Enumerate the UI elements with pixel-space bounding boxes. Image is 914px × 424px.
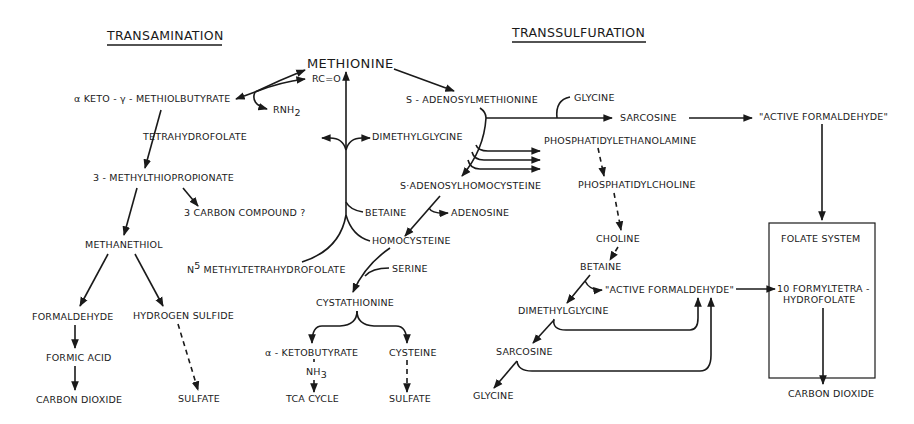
node-sarcosine-top: SARCOSINE <box>620 112 677 123</box>
node-s-adenosylmethionine: S - ADENOSYLMETHIONINE <box>406 94 538 105</box>
node-adenosine: ADENOSINE <box>451 207 509 218</box>
node-glycine-top: GLYCINE <box>574 92 615 103</box>
node-methionine: METHIONINE <box>307 56 394 71</box>
node-formaldehyde: FORMALDEHYDE <box>32 311 114 322</box>
transamination-arrows <box>75 110 198 390</box>
section-title-transsulfuration: TRANSSULFURATION <box>511 25 646 42</box>
node-nh3: NH3 <box>306 366 327 380</box>
node-10-formyltetrahydrofolate-line2: HYDROFOLATE <box>783 294 856 305</box>
node-dimethylglycine-right: DIMETHYLGLYCINE <box>518 305 609 316</box>
folate-system-box: FOLATE SYSTEM 10 FORMYLTETRA - HYDROFOLA… <box>769 223 875 399</box>
node-choline: CHOLINE <box>596 233 640 244</box>
node-methanethiol: METHANETHIOL <box>85 239 163 250</box>
folate-system-title: FOLATE SYSTEM <box>781 233 861 244</box>
node-betaine-center: BETAINE <box>365 207 406 218</box>
node-glycine-right: GLYCINE <box>473 390 514 401</box>
node-homocysteine: HOMOCYSTEINE <box>372 235 451 246</box>
node-sarcosine-right: SARCOSINE <box>496 346 553 357</box>
node-alpha-ketobutyrate: α - KETOBUTYRATE <box>265 347 358 358</box>
node-sulfate-left: SULFATE <box>178 393 220 404</box>
node-cysteine: CYSTEINE <box>389 347 437 358</box>
node-carbon-dioxide-right: CARBON DIOXIDE <box>788 388 874 399</box>
methionine-metabolism-diagram: TRANSAMINATION TRANSSULFURATION METHIONI… <box>0 0 914 424</box>
node-rnh2: RNH2 <box>273 104 301 118</box>
node-hydrogen-sulfide: HYDROGEN SULFIDE <box>133 310 234 321</box>
section-title-transamination: TRANSAMINATION <box>106 28 224 45</box>
node-3-methylthiopropionate: 3 - METHYLTHIOPROPIONATE <box>93 172 234 183</box>
node-active-formaldehyde-top: "ACTIVE FORMALDEHYDE" <box>759 111 888 122</box>
node-dimethylglycine-center: DIMETHYLGLYCINE <box>372 131 463 142</box>
node-s-adenosylhomocysteine: S·ADENOSYLHOMOCYSTEINE <box>400 180 541 191</box>
transsulfuration-heading: TRANSSULFURATION <box>511 25 645 40</box>
node-carbon-dioxide-left: CARBON DIOXIDE <box>36 394 122 405</box>
node-tca-cycle: TCA CYCLE <box>285 393 339 404</box>
node-tetrahydrofolate: TETRAHYDROFOLATE <box>142 131 247 142</box>
node-phosphatidylethanolamine: PHOSPHATIDYLETHANOLAMINE <box>544 135 696 146</box>
node-serine: SERINE <box>392 263 428 274</box>
node-sulfate-center: SULFATE <box>389 393 431 404</box>
node-3-carbon-compound: 3 CARBON COMPOUND ? <box>184 207 306 218</box>
transamination-heading: TRANSAMINATION <box>106 28 224 43</box>
node-formic-acid: FORMIC ACID <box>46 352 111 363</box>
node-10-formyltetrahydrofolate-line1: 10 FORMYLTETRA - <box>777 283 870 294</box>
node-alpha-keto-methiolbutyrate: α KETO - γ - METHIOLBUTYRATE <box>74 93 231 104</box>
node-n5-methyltetrahydrofolate: N5METHYLTETRAHYDROFOLATE <box>187 260 346 275</box>
node-cystathionine: CYSTATHIONINE <box>316 297 394 308</box>
node-rc-o: RC=O <box>312 73 341 84</box>
center-arrows <box>236 69 454 392</box>
node-active-formaldehyde-mid: "ACTIVE FORMALDEHYDE" <box>605 284 734 295</box>
node-phosphatidylcholine: PHOSPHATIDYLCHOLINE <box>578 179 696 190</box>
node-betaine-right: BETAINE <box>580 261 621 272</box>
